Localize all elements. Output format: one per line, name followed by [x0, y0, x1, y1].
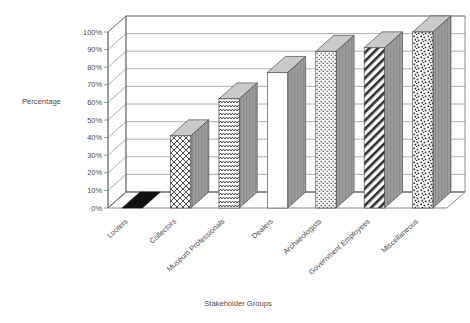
bar-side-face — [288, 56, 306, 208]
x-category-label: Miscellaneous — [379, 217, 420, 255]
bar-side-face — [239, 83, 257, 208]
y-tick-label: 20% — [87, 168, 102, 177]
bar-front-face — [364, 48, 384, 208]
y-tick-label: 50% — [87, 116, 102, 125]
gridline-connector — [108, 104, 126, 120]
bar-side-face — [385, 32, 403, 208]
y-tick-label: 10% — [87, 186, 102, 195]
gridline-connector — [108, 16, 126, 32]
y-tick-label: 100% — [83, 28, 102, 37]
gridline-connector — [108, 174, 126, 190]
bar-side-face — [433, 16, 451, 208]
x-category-label: Looters — [105, 217, 130, 240]
bar-column — [316, 35, 354, 208]
y-tick-label: 60% — [87, 98, 102, 107]
x-category-label: Archaeologists — [281, 217, 323, 256]
bar-column — [413, 16, 451, 208]
bar-side-face — [191, 120, 209, 208]
bar-group — [122, 16, 451, 208]
gridline-connector — [108, 34, 126, 50]
y-tick-label: 70% — [87, 80, 102, 89]
bar-column — [364, 32, 402, 208]
gridline-connector — [108, 157, 126, 173]
bar-front-face — [413, 32, 433, 208]
bar-front-face — [170, 136, 190, 208]
y-tick-label: 80% — [87, 63, 102, 72]
chart-canvas: 0%10%20%30%40%50%60%70%80%90%100% Looter… — [0, 0, 470, 323]
gridline-connector — [108, 69, 126, 85]
x-category-label: Collectors — [148, 217, 179, 246]
gridline-connector — [108, 122, 126, 138]
gridline-connector — [108, 139, 126, 155]
bar-front-face — [267, 72, 287, 208]
bar-front-face — [316, 51, 336, 208]
bar-front-face — [219, 99, 239, 208]
y-tick-label: 40% — [87, 133, 102, 142]
bar-side-face — [336, 35, 354, 208]
bar-column — [219, 83, 257, 208]
category-label-group: LootersCollectorsMuseum ProfessionalsDea… — [105, 217, 420, 277]
y-tick-label: 0% — [91, 204, 102, 213]
gridline-connector — [108, 51, 126, 67]
y-tick-label: 90% — [87, 45, 102, 54]
y-tick-label: 30% — [87, 151, 102, 160]
y-axis-title: Percentage — [22, 97, 61, 106]
y-tick-group: 0%10%20%30%40%50%60%70%80%90%100% — [83, 28, 108, 213]
bar-chart: 0%10%20%30%40%50%60%70%80%90%100% Looter… — [0, 0, 470, 323]
x-axis-title: Stakeholder Groups — [204, 299, 272, 308]
bar-column — [267, 56, 305, 208]
gridline-connector — [108, 86, 126, 102]
bar-column — [170, 120, 208, 208]
x-category-label: Dealers — [250, 217, 275, 241]
